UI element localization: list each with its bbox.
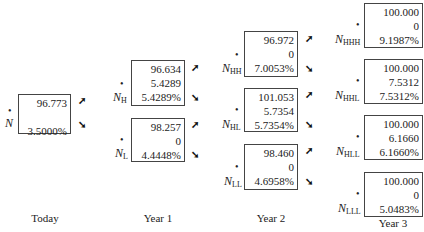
node-nh-rate: 5.4289% (135, 90, 181, 104)
node-nhhl-cashflow: 7.5312 (368, 75, 419, 89)
node-nlll-box: 100.000 0 5.0483% (364, 172, 423, 217)
node-nl-box: 98.257 0 4.4448% (131, 118, 185, 162)
node-nhhh-price: 100.000 (368, 5, 419, 19)
period-label-year-3: Year 3 (379, 217, 408, 229)
node-nl-cashflow: 0 (135, 134, 181, 148)
node-nhll-box: 100.000 6.1660 6.1660% (364, 115, 423, 160)
node-dot-icon: • (356, 20, 360, 30)
node-nhh-cashflow: 0 (248, 47, 294, 61)
arrow-down-icon: ➘ (191, 93, 199, 103)
node-nhhh-rate: 9.1987% (368, 33, 419, 47)
arrow-down-icon: ➘ (305, 120, 313, 130)
node-nhll-rate: 6.1660% (368, 145, 419, 159)
node-nhll-price: 100.000 (368, 117, 419, 131)
node-nhhl-label: NHHL (335, 89, 359, 105)
node-nh-box: 96.634 5.4289 5.4289% (131, 60, 185, 106)
arrow-up-icon: ➚ (305, 34, 313, 44)
node-dot-icon: • (8, 106, 12, 116)
node-n-box: 96.773 3.5000% (18, 94, 71, 134)
node-n-rate: 3.5000% (22, 124, 67, 138)
node-nlll-cashflow: 0 (368, 188, 419, 202)
node-nll-price: 98.460 (248, 146, 294, 160)
node-nhll-cashflow: 6.1660 (368, 131, 419, 145)
node-dot-icon: • (235, 162, 239, 172)
node-dot-icon: • (356, 189, 360, 199)
arrow-down-icon: ➘ (305, 177, 313, 187)
node-nll-box: 98.460 0 4.6958% (244, 144, 298, 190)
node-nhhh-label: NHHH (335, 33, 360, 49)
node-nll-cashflow: 0 (248, 160, 294, 174)
node-n-price: 96.773 (22, 96, 67, 110)
period-label-year-1: Year 1 (144, 212, 173, 224)
arrow-up-icon: ➚ (191, 63, 199, 73)
node-nh-label: NH (113, 91, 127, 107)
node-n-cashflow (22, 110, 67, 124)
arrow-up-icon: ➚ (191, 120, 199, 130)
node-dot-icon: • (120, 135, 124, 145)
node-nhhh-box: 100.000 0 9.1987% (364, 3, 423, 48)
node-nhhl-rate: 7.5312% (368, 89, 419, 103)
node-nhh-box: 96.972 0 7.0053% (244, 31, 298, 77)
node-nhh-label: NHH (222, 62, 242, 78)
node-nl-rate: 4.4448% (135, 148, 181, 162)
node-nhll-label: NHLL (336, 145, 360, 161)
node-dot-icon: • (356, 76, 360, 86)
arrow-up-icon: ➚ (78, 96, 86, 106)
arrow-down-icon: ➘ (78, 120, 86, 130)
node-nhl-label: NHL (222, 118, 241, 134)
node-nll-label: NLL (224, 175, 242, 191)
period-label-today: Today (31, 212, 58, 224)
node-nll-rate: 4.6958% (248, 174, 294, 188)
arrow-up-icon: ➚ (305, 146, 313, 156)
node-nhh-price: 96.972 (248, 33, 294, 47)
node-nhl-price: 101.053 (248, 90, 294, 104)
node-nlll-label: NLLL (338, 202, 361, 218)
node-nhl-cashflow: 5.7354 (248, 104, 294, 118)
node-nhhl-box: 100.000 7.5312 7.5312% (364, 59, 423, 104)
node-n-label: N (5, 117, 13, 130)
node-nh-cashflow: 5.4289 (135, 76, 181, 90)
node-dot-icon: • (235, 50, 239, 60)
node-nl-label: NL (115, 147, 128, 163)
arrow-down-icon: ➘ (305, 64, 313, 74)
node-nlll-price: 100.000 (368, 174, 419, 188)
node-nhl-rate: 5.7354% (248, 118, 294, 132)
node-nh-price: 96.634 (135, 62, 181, 76)
node-dot-icon: • (120, 79, 124, 89)
node-dot-icon: • (356, 132, 360, 142)
arrow-down-icon: ➘ (191, 150, 199, 160)
node-nhhl-price: 100.000 (368, 61, 419, 75)
node-nl-price: 98.257 (135, 120, 181, 134)
node-nhhh-cashflow: 0 (368, 19, 419, 33)
node-dot-icon: • (235, 105, 239, 115)
arrow-up-icon: ➚ (305, 90, 313, 100)
node-nhl-box: 101.053 5.7354 5.7354% (244, 88, 298, 132)
node-nhh-rate: 7.0053% (248, 61, 294, 75)
period-label-year-2: Year 2 (257, 212, 286, 224)
node-nlll-rate: 5.0483% (368, 202, 419, 216)
